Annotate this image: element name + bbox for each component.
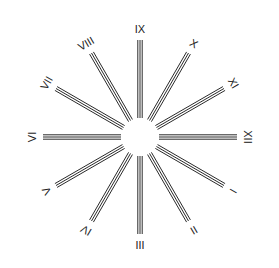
spoke-line (55, 145, 123, 184)
spoke-line (148, 155, 187, 223)
spoke-label: IX (135, 23, 146, 35)
spoke-viii: VIII (76, 34, 133, 122)
spoke-label: VI (26, 132, 38, 142)
spoke-label: III (135, 239, 144, 251)
spoke-line (92, 153, 131, 221)
spoke-line (150, 153, 189, 221)
spoke-line (55, 90, 123, 129)
spoke-line (156, 89, 224, 128)
spoke-label: I (228, 187, 240, 196)
spoke-line (56, 147, 124, 186)
spoke-label: VII (38, 74, 55, 92)
spoke-line (93, 155, 132, 223)
center-hub (124, 121, 156, 153)
spoke-label: II (188, 224, 199, 237)
spoke-i: I (155, 145, 239, 196)
spoke-line (158, 145, 226, 184)
spoke-line (148, 52, 187, 120)
spoke-ix: IX (135, 23, 146, 118)
spoke-label: VIII (76, 34, 96, 53)
spoke-label: IV (78, 222, 94, 238)
spoke-line (56, 89, 124, 128)
diagram-canvas: IXXXIXIIIIIIIIIVVVIVIIVIII (0, 0, 279, 268)
spoke-xii: XII (159, 130, 254, 143)
spoke-iii: III (135, 156, 144, 251)
spoke-line (150, 53, 189, 121)
spoke-label: XII (242, 130, 254, 143)
spoke-line (158, 90, 226, 129)
spoke-line (93, 52, 132, 120)
spoke-label: V (39, 184, 53, 197)
spoke-label: XI (226, 75, 242, 90)
spoke-line (92, 53, 131, 121)
radial-spoke-diagram: IXXXIXIIIIIIIIIVVVIVIIVIII (0, 0, 279, 268)
spoke-vii: VII (38, 74, 125, 129)
spoke-line (156, 147, 224, 186)
spoke-label: X (188, 36, 201, 50)
spoke-vi: VI (26, 132, 121, 142)
spoke-ii: II (148, 152, 200, 237)
